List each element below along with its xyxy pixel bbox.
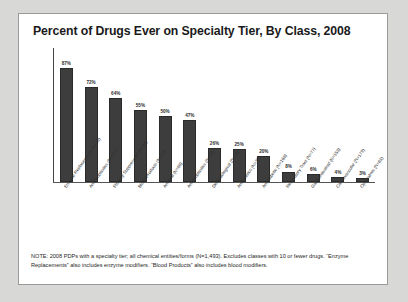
- bar-value-label: 8%: [285, 165, 292, 170]
- bar: [60, 68, 73, 182]
- category-slot: Antiemetics (N=32): [227, 184, 252, 250]
- category-slot: Antidiabetic (N=168): [252, 184, 277, 250]
- bar-value-label: 20%: [259, 150, 268, 155]
- category-slot: Antineoplastics (N=79): [177, 184, 202, 250]
- bar-value-label: 47%: [185, 114, 194, 119]
- bar-value-label: 87%: [62, 62, 71, 67]
- category-slot: Dermatological (N=24): [202, 184, 227, 250]
- bar-value-label: 25%: [235, 143, 244, 148]
- bar-value-label: 55%: [136, 104, 145, 109]
- category-slot: Cardiovascular (N=179): [326, 184, 351, 250]
- footnote-text: NOTE: 2008 PDPs with a specialty tier; a…: [31, 252, 375, 270]
- bar: [109, 98, 122, 182]
- bar-value-label: 6%: [310, 168, 317, 173]
- category-slot: Blood Products (N=22): [128, 184, 153, 250]
- bar-value-label: 64%: [111, 92, 120, 97]
- bar-value-label: 26%: [210, 142, 219, 147]
- bar-value-label: 50%: [160, 110, 169, 115]
- footnote: NOTE: 2008 PDPs with a specialty tier; a…: [31, 252, 375, 282]
- category-slot: Ophthalmic (N=61): [350, 184, 375, 250]
- slide-frame: Percent of Drugs Ever on Specialty Tier,…: [18, 13, 388, 285]
- bar: [159, 116, 172, 182]
- category-slot: Pituitary Suppressant (N=34): [103, 184, 128, 250]
- bar: [85, 87, 98, 182]
- bar-group: 87%: [54, 48, 79, 182]
- category-slot: Gastrointestinal (N=153): [301, 184, 326, 250]
- category-slot: Antiviral (N=88): [153, 184, 178, 250]
- page-title: Percent of Drugs Ever on Specialty Tier,…: [33, 24, 377, 38]
- category-slot: Respiratory Tract (N=77): [276, 184, 301, 250]
- bar-value-label: 4%: [335, 171, 342, 176]
- category-slot: Enzyme Replacements (N=13): [54, 184, 79, 250]
- category-slot: Antineoplastics (N=187): [79, 184, 104, 250]
- bar-value-label: 72%: [86, 81, 95, 86]
- x-axis-category-labels: Enzyme Replacements (N=13)Antineoplastic…: [54, 184, 375, 250]
